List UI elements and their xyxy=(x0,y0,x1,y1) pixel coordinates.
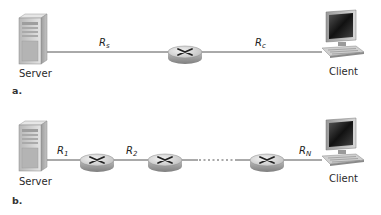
link-rate-rn: RN xyxy=(299,145,311,158)
router-icon-b1 xyxy=(80,154,114,172)
part-label-b: b. xyxy=(12,195,22,206)
router-icon-b2 xyxy=(148,154,182,172)
server-label-b: Server xyxy=(19,176,52,187)
server-icon-a xyxy=(19,14,47,64)
client-label-b: Client xyxy=(329,173,358,184)
client-icon-a xyxy=(322,10,364,58)
network-diagram xyxy=(0,0,381,215)
link-rate-rs: Rs xyxy=(99,37,110,50)
server-label-a: Server xyxy=(19,68,52,79)
client-label-a: Client xyxy=(329,66,358,77)
router-icon-bn xyxy=(250,154,284,172)
link-rate-r1: R1 xyxy=(57,145,68,158)
part-label-a: a. xyxy=(12,85,22,96)
server-icon-b xyxy=(19,121,47,171)
link-rate-rc: Rc xyxy=(255,37,266,50)
router-icon-a xyxy=(168,46,202,64)
client-icon-b xyxy=(322,118,364,166)
link-rate-r2: R2 xyxy=(126,145,137,158)
